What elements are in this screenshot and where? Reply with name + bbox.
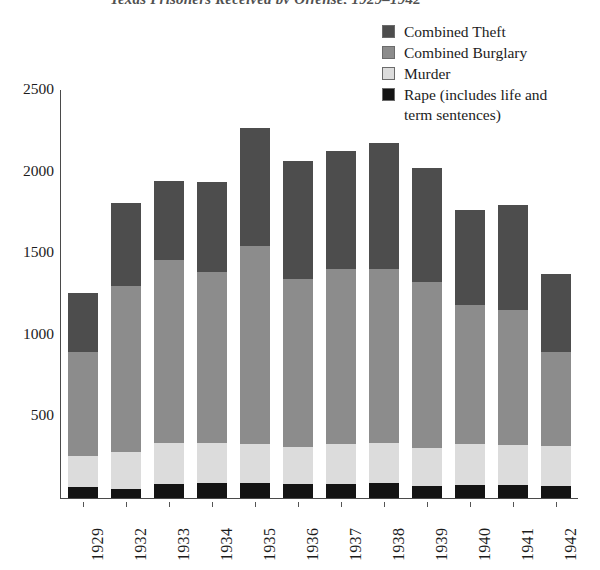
bar-segment [68,456,98,486]
bar-segment [240,128,270,246]
bar-segment [412,282,442,448]
legend-item: Combined Burglary [382,43,596,63]
bar-segment [541,486,571,498]
bar-segment [283,161,313,279]
y-tick-label: 2500 [8,80,54,98]
x-tick-label-1941: 1941 [519,528,537,561]
bar-segment [412,168,442,282]
bar-segment [111,489,141,498]
bar-1933 [154,181,184,498]
bar-segment [68,352,98,456]
bar-segment [326,269,356,444]
bar-segment [154,181,184,260]
chart-title: Texas Prisoners Received by Offense, 192… [110,0,450,4]
bar-1940 [455,210,485,498]
bar-segment [197,182,227,272]
bar-segment [326,484,356,498]
bar-segment [498,485,528,498]
x-tick-mark [126,502,127,507]
legend-label: Murder [404,64,451,84]
x-tick-label-1929: 1929 [89,528,107,561]
bar-segment [68,487,98,498]
bar-1932 [111,203,141,498]
bar-segment [455,444,485,485]
x-tick-mark [470,502,471,507]
x-axis-line [60,498,578,499]
bar-segment [154,484,184,498]
y-axis-tick-labels: 2500200015001000500 [4,90,54,498]
bar-segment [369,483,399,498]
bar-segment [111,203,141,285]
bar-segment [498,445,528,485]
bar-1935 [240,128,270,498]
x-tick-label-1934: 1934 [218,528,236,561]
x-tick-label-1932: 1932 [132,528,150,561]
bar-segment [197,443,227,483]
bar-1937 [326,151,356,498]
legend-item: Murder [382,64,596,84]
bar-1929 [68,293,98,498]
x-tick-mark [83,502,84,507]
bar-1941 [498,205,528,498]
y-tick-label: 1000 [8,325,54,343]
x-tick-mark [384,502,385,507]
x-tick-mark [169,502,170,507]
x-tick-mark [341,502,342,507]
bar-segment [498,205,528,310]
legend-label: Combined Theft [404,22,506,42]
x-tick-label-1942: 1942 [562,528,580,561]
bar-1936 [283,161,313,498]
bar-1939 [412,168,442,498]
bar-segment [197,483,227,499]
bar-segment [68,293,98,352]
bar-segment [369,443,399,484]
x-tick-label-1938: 1938 [390,528,408,561]
bar-segment [541,274,571,352]
bar-1934 [197,182,227,498]
bar-segment [455,210,485,305]
bar-segment [240,483,270,498]
bar-1942 [541,274,571,498]
y-tick-label: 500 [8,406,54,424]
x-axis-tick-labels: 1929193219331934193519361937193819391940… [60,503,578,565]
x-tick-label-1940: 1940 [476,528,494,561]
bar-segment [455,305,485,444]
x-tick-mark [298,502,299,507]
legend-swatch-combined_theft [382,25,395,38]
x-tick-label-1935: 1935 [261,528,279,561]
stacked-bar-chart: Texas Prisoners Received by Offense, 192… [0,0,600,570]
y-tick-label: 2000 [8,162,54,180]
x-tick-mark [513,502,514,507]
bar-segment [111,452,141,490]
bar-segment [240,246,270,444]
bar-segment [283,279,313,447]
bar-segment [412,486,442,498]
bar-segment [283,447,313,485]
bar-segment [541,446,571,486]
bar-group [61,90,578,498]
plot-area [60,90,578,498]
x-tick-label-1936: 1936 [304,528,322,561]
bar-segment [111,286,141,452]
legend-swatch-murder [382,67,395,80]
x-tick-mark [556,502,557,507]
bar-segment [240,444,270,483]
x-tick-label-1933: 1933 [175,528,193,561]
bar-segment [283,484,313,498]
y-tick-label: 1500 [8,243,54,261]
x-tick-mark [427,502,428,507]
legend-label: Combined Burglary [404,43,527,63]
legend-item: Combined Theft [382,22,596,42]
bar-segment [498,310,528,445]
bar-segment [154,443,184,485]
x-tick-label-1937: 1937 [347,528,365,561]
legend-swatch-combined_burglary [382,46,395,59]
bar-segment [455,485,485,498]
bar-segment [326,151,356,269]
bar-segment [412,448,442,486]
bar-segment [541,352,571,446]
bar-1938 [369,143,399,498]
x-tick-label-1939: 1939 [433,528,451,561]
bar-segment [197,272,227,443]
x-tick-mark [212,502,213,507]
